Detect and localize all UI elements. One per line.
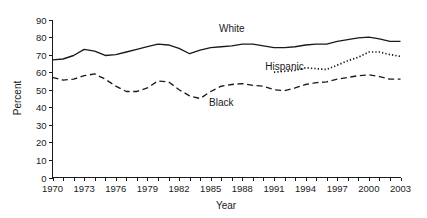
- y-tick-label: 20: [36, 137, 47, 148]
- y-tick-label: 90: [36, 15, 47, 26]
- x-tick-label: 1994: [295, 183, 316, 194]
- series-label-hispanic: Hispanic: [265, 61, 303, 72]
- y-tick-label: 70: [36, 50, 47, 61]
- series-line-white: [53, 37, 401, 60]
- x-axis-title: Year: [216, 200, 237, 211]
- chart-figure: 0102030405060708090 19701973197619791982…: [0, 0, 427, 218]
- y-axis-tick-labels: 0102030405060708090: [36, 15, 47, 184]
- x-tick-label: 1985: [200, 183, 221, 194]
- y-tick-label: 60: [36, 67, 47, 78]
- y-tick-label: 40: [36, 102, 47, 113]
- x-tick-label: 1991: [263, 183, 284, 194]
- y-tick-label: 30: [36, 120, 47, 131]
- x-tick-label: 1979: [137, 183, 158, 194]
- y-axis-title: Percent: [12, 81, 23, 116]
- x-tick-label: 1982: [168, 183, 189, 194]
- x-tick-label: 1973: [74, 183, 95, 194]
- data-series-group: [53, 37, 401, 98]
- series-line-black: [53, 74, 401, 99]
- line-chart-svg: 0102030405060708090 19701973197619791982…: [0, 0, 427, 218]
- series-annotation-labels: WhiteBlackHispanic: [209, 23, 304, 108]
- x-axis-tick-labels: 1970197319761979198219851988199119941997…: [42, 183, 411, 194]
- x-tick-label: 1988: [232, 183, 253, 194]
- y-tick-label: 10: [36, 155, 47, 166]
- x-tick-label: 1970: [42, 183, 63, 194]
- y-tick-label: 50: [36, 85, 47, 96]
- x-tick-label: 2000: [358, 183, 379, 194]
- x-tick-label: 1976: [105, 183, 126, 194]
- y-tick-label: 80: [36, 32, 47, 43]
- series-label-black: Black: [209, 97, 234, 108]
- x-tick-label: 1997: [327, 183, 348, 194]
- x-tick-label: 2003: [390, 183, 411, 194]
- series-label-white: White: [219, 23, 245, 34]
